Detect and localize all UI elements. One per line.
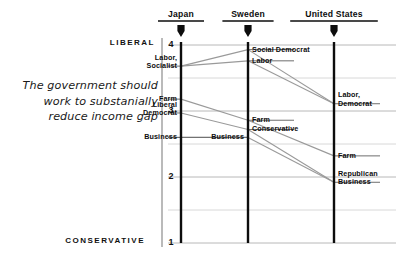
gridlines xyxy=(168,45,396,243)
header-arrow-united-states xyxy=(291,25,377,37)
column-header-marks xyxy=(158,21,378,37)
node-label-sweden-business: Business xyxy=(152,133,244,141)
node-label-japan-liberal-democrat: Liberal Democrat xyxy=(85,101,177,118)
node-label-us-labor-democrat: Labor, Democrat xyxy=(338,91,402,108)
header-arrow-japan xyxy=(159,25,203,37)
spectrum-chart: The government should work to substanial… xyxy=(0,0,402,258)
axis-tick-4: 4 xyxy=(165,39,177,49)
axis-pole-liberal: LIBERAL xyxy=(35,38,155,47)
link-line xyxy=(181,99,248,120)
node-label-japan-labor-socialist: Labor, Socialist xyxy=(85,54,177,71)
header-arrow-sweden xyxy=(223,25,272,37)
node-label-us-farm: Farm xyxy=(338,152,402,160)
axis-pole-conservative: CONSERVATIVE xyxy=(25,236,145,245)
node-label-sweden-conservative: Conservative xyxy=(252,125,348,133)
caption-line-1: The government should xyxy=(6,78,158,94)
link-line xyxy=(248,129,334,182)
node-label-sweden-farm: Farm xyxy=(252,116,348,124)
link-line xyxy=(248,61,334,104)
column-header-united-states: United States xyxy=(274,9,394,19)
axis-tick-1: 1 xyxy=(165,237,177,247)
link-line xyxy=(181,113,248,129)
axis-tick-2: 2 xyxy=(165,171,177,181)
node-label-sweden-social-democrat: Social Democrat xyxy=(252,46,348,54)
node-label-us-republican-business: Republican Business xyxy=(338,170,402,187)
node-label-sweden-labor: Labor xyxy=(252,57,348,65)
